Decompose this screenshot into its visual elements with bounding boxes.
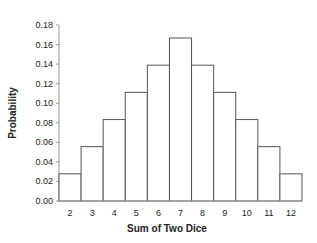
y-tick-label: 0.04 <box>35 157 53 167</box>
y-tick-label: 0.00 <box>35 196 53 206</box>
bar <box>81 147 103 201</box>
bar <box>280 174 302 201</box>
x-axis: 23456789101112 <box>59 201 302 218</box>
x-tick-label: 3 <box>90 208 95 218</box>
bar <box>147 65 169 201</box>
probability-histogram: 0.000.020.040.060.080.100.120.140.160.18… <box>0 0 317 243</box>
bar <box>103 120 125 201</box>
y-tick-label: 0.02 <box>35 176 53 186</box>
x-tick-label: 8 <box>200 208 205 218</box>
y-tick-label: 0.06 <box>35 137 53 147</box>
bar <box>192 65 214 201</box>
bar <box>258 147 280 201</box>
x-axis-title: Sum of Two Dice <box>127 223 207 234</box>
x-tick-label: 11 <box>264 208 273 218</box>
bars <box>59 38 302 201</box>
y-tick-label: 0.12 <box>35 79 53 89</box>
y-tick-label: 0.16 <box>35 40 53 50</box>
y-tick-label: 0.18 <box>35 20 53 30</box>
bar <box>169 38 191 201</box>
bar <box>59 174 81 201</box>
bar <box>236 120 258 201</box>
bar <box>125 92 147 201</box>
bar <box>214 92 236 201</box>
y-axis: 0.000.020.040.060.080.100.120.140.160.18 <box>35 20 59 206</box>
x-tick-label: 2 <box>68 208 73 218</box>
x-tick-label: 7 <box>178 208 183 218</box>
x-tick-label: 6 <box>156 208 161 218</box>
y-tick-label: 0.10 <box>35 98 53 108</box>
x-tick-label: 5 <box>134 208 139 218</box>
x-tick-label: 4 <box>112 208 117 218</box>
y-axis-title: Probability <box>7 87 18 139</box>
x-tick-label: 9 <box>222 208 227 218</box>
y-tick-label: 0.08 <box>35 118 53 128</box>
y-tick-label: 0.14 <box>35 59 53 69</box>
x-tick-label: 10 <box>242 208 252 218</box>
x-tick-label: 12 <box>286 208 296 218</box>
